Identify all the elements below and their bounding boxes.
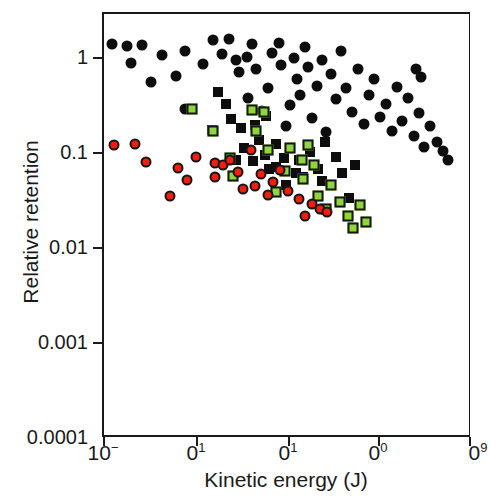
data-point-black-squares-18: [350, 160, 360, 170]
data-point-black-circles-25: [295, 90, 306, 101]
data-point-green-squares-10: [297, 155, 308, 166]
x-label-1-base: 0: [187, 441, 199, 464]
data-point-green-squares-7: [263, 145, 274, 156]
data-point-black-circles-46: [403, 93, 414, 104]
data-point-black-circles-37: [353, 64, 364, 75]
data-point-black-circles-30: [317, 55, 328, 66]
data-point-black-circles-0: [122, 41, 133, 52]
data-point-black-circles-4: [171, 71, 182, 82]
data-point-red-circles-22: [191, 152, 202, 163]
plot-area: [102, 12, 470, 437]
x-label-1-exp: 1: [198, 440, 205, 455]
data-point-green-squares-17: [348, 223, 359, 234]
y-label-0-1: 0.1: [60, 141, 88, 164]
data-point-black-circles-23: [289, 53, 300, 64]
data-point-red-circles-12: [263, 190, 274, 201]
y-tick-0-001: [93, 342, 102, 344]
data-point-black-circles-57: [157, 50, 168, 61]
x-axis-title: Kinetic energy (J): [102, 468, 470, 492]
data-point-red-circles-0: [109, 140, 120, 151]
data-point-black-circles-15: [243, 93, 254, 104]
data-point-red-circles-13: [268, 177, 279, 188]
y-axis-tick-labels: 1 0.1 0.01 0.001 0.0001: [0, 12, 88, 437]
data-point-black-circles-27: [303, 62, 314, 73]
data-point-black-circles-45: [397, 116, 408, 127]
data-point-green-squares-19: [361, 217, 372, 228]
data-point-green-squares-16: [343, 211, 354, 222]
data-point-black-circles-40: [369, 74, 380, 85]
data-point-red-circles-14: [275, 165, 286, 176]
data-point-green-squares-22: [309, 160, 320, 171]
data-point-red-circles-20: [210, 172, 221, 183]
data-point-black-circles-33: [331, 94, 342, 105]
data-point-black-circles-56: [180, 46, 191, 57]
x-label-4-exp: 9: [480, 440, 487, 455]
x-label-1: 01: [187, 441, 206, 465]
data-point-black-circles-22: [285, 100, 296, 111]
data-point-black-circles-29: [312, 81, 323, 92]
x-label-3-base: 0: [369, 441, 381, 464]
data-point-black-circles-44: [392, 82, 403, 93]
data-point-black-circles-31: [321, 127, 332, 138]
data-point-black-squares-0: [213, 87, 223, 97]
data-point-black-circles-1: [137, 40, 148, 51]
data-point-green-squares-1: [187, 104, 198, 115]
data-point-black-circles-38: [359, 119, 370, 130]
data-point-red-circles-3: [165, 191, 176, 202]
data-point-black-circles-18: [267, 48, 278, 59]
data-point-black-circles-12: [242, 52, 253, 63]
data-point-black-circles-35: [341, 83, 352, 94]
x-label-0-base: 10: [88, 441, 111, 464]
data-point-black-circles-50: [425, 121, 436, 132]
data-point-red-circles-11: [250, 181, 261, 192]
data-point-red-circles-8: [233, 167, 244, 178]
x-label-3: 00: [369, 441, 388, 465]
data-point-green-squares-3: [259, 107, 270, 118]
data-point-black-circles-58: [107, 39, 118, 50]
y-label-0-01: 0.01: [49, 236, 88, 259]
data-point-red-circles-18: [322, 207, 333, 218]
data-point-red-circles-1: [130, 139, 141, 150]
data-point-black-circles-55: [416, 72, 427, 83]
data-point-green-squares-2: [247, 105, 258, 116]
y-label-0-001: 0.001: [38, 331, 88, 354]
data-point-black-circles-34: [336, 46, 347, 57]
y-axis-title: Relative retention: [19, 67, 43, 377]
data-point-black-squares-22: [248, 156, 258, 166]
x-label-2-base: 0: [279, 441, 291, 464]
x-label-2: 01: [279, 441, 298, 465]
data-point-black-circles-17: [263, 83, 274, 94]
data-point-black-circles-32: [326, 69, 337, 80]
data-point-black-squares-16: [337, 168, 347, 178]
data-point-black-circles-2: [126, 58, 137, 69]
data-point-red-circles-15: [294, 194, 305, 205]
data-point-black-circles-3: [146, 77, 157, 88]
data-point-black-squares-17: [344, 193, 354, 203]
data-point-black-circles-8: [217, 49, 228, 60]
data-point-black-squares-6: [254, 135, 264, 145]
data-point-black-circles-36: [347, 107, 358, 118]
y-tick-0-01: [93, 247, 102, 249]
data-point-black-circles-20: [276, 60, 287, 71]
scatter-plot-figure: 1 0.1 0.01 0.001 0.0001 10− 01 01 00 09 …: [0, 0, 491, 500]
data-point-black-circles-53: [443, 155, 454, 166]
data-point-black-circles-42: [381, 99, 392, 110]
data-point-black-circles-49: [419, 142, 430, 153]
y-tick-0-1: [93, 152, 102, 154]
data-point-black-squares-2: [226, 114, 236, 124]
data-point-black-circles-14: [251, 64, 262, 75]
data-point-red-circles-2: [141, 157, 152, 168]
x-label-0-exp: −: [111, 440, 119, 455]
data-point-black-squares-14: [320, 137, 330, 147]
data-point-black-circles-28: [307, 113, 318, 124]
data-point-red-circles-19: [300, 211, 311, 222]
data-point-black-circles-9: [224, 34, 235, 45]
data-point-red-circles-23: [173, 163, 184, 174]
data-point-green-squares-9: [285, 143, 296, 154]
data-point-black-circles-26: [300, 42, 311, 53]
data-point-black-squares-3: [236, 123, 246, 133]
y-label-1: 1: [77, 46, 88, 69]
data-point-black-circles-13: [247, 39, 258, 50]
x-label-3-exp: 0: [380, 440, 387, 455]
data-point-green-squares-14: [326, 180, 337, 191]
